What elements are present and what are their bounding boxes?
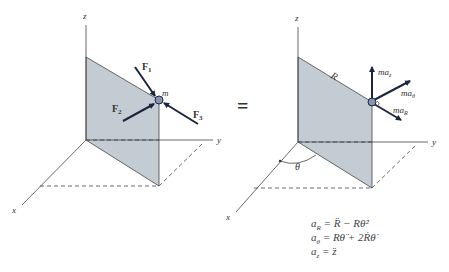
equals-sign: = [237, 95, 248, 117]
left-figure: z y x m F1 F2 F3 [11, 11, 221, 215]
label-ma-z: maz [378, 67, 392, 78]
left-plane [86, 57, 159, 186]
right-figure: z y x R θ maz maθ maR [225, 13, 436, 222]
left-z-label: z [82, 11, 87, 21]
force-label-f1: F1 [142, 61, 152, 74]
equation-a-z: az = z̈ [311, 244, 336, 263]
right-y-label: y [431, 137, 436, 147]
free-body-kinetic-diagram: z y x m F1 F2 F3 = z y x R θ maz maθ maR [0, 0, 449, 272]
label-ma-r: maR [393, 105, 408, 116]
right-z-label: z [294, 13, 299, 23]
left-x-label: x [11, 205, 16, 215]
force-label-f3: F3 [193, 109, 203, 122]
right-x-label: x [225, 212, 230, 222]
theta-label: θ [295, 161, 300, 172]
right-x-axis [236, 142, 298, 212]
mass-label: m [162, 88, 169, 98]
label-ma-theta: maθ [401, 88, 415, 99]
right-particle [368, 98, 376, 106]
left-x-axis [22, 140, 86, 205]
left-y-label: y [216, 135, 221, 145]
